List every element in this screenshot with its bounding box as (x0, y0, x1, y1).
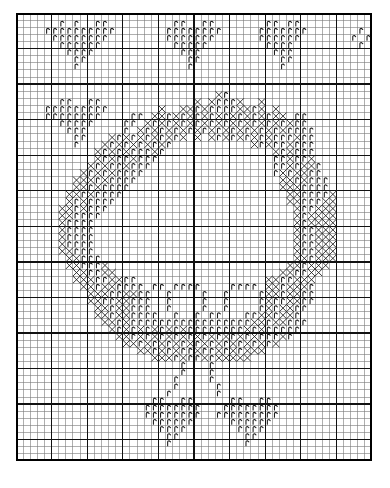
symbol-full-cross-stitch (330, 248, 337, 255)
symbol-full-cross-stitch (287, 156, 294, 163)
symbol-quarter-stitch-mark (96, 206, 99, 211)
symbol-quarter-stitch-mark (324, 192, 327, 197)
symbol-quarter-stitch-mark (225, 412, 228, 417)
symbol-full-cross-stitch (330, 227, 337, 234)
symbol-full-cross-stitch (273, 319, 280, 326)
symbol-quarter-stitch-mark (239, 121, 242, 126)
symbol-quarter-stitch-mark (189, 50, 192, 55)
symbol-quarter-stitch-mark (47, 114, 50, 119)
symbol-quarter-stitch-mark (61, 35, 64, 40)
symbol-quarter-stitch-mark (189, 57, 192, 62)
symbol-quarter-stitch-mark (89, 28, 92, 33)
symbol-quarter-stitch-mark (282, 149, 285, 154)
symbol-full-cross-stitch (265, 134, 272, 141)
symbol-full-cross-stitch (223, 333, 230, 340)
symbol-full-cross-stitch (73, 269, 80, 276)
symbol-quarter-stitch-mark (153, 348, 156, 353)
symbol-quarter-stitch-mark (89, 263, 92, 268)
symbol-full-cross-stitch (280, 127, 287, 134)
symbol-full-cross-stitch (123, 326, 130, 333)
symbol-full-cross-stitch (322, 248, 329, 255)
symbol-quarter-stitch-mark (96, 21, 99, 26)
symbol-quarter-stitch-mark (267, 320, 270, 325)
symbol-quarter-stitch-mark (310, 227, 313, 232)
symbol-full-cross-stitch (237, 106, 244, 113)
symbol-quarter-stitch-mark (303, 149, 306, 154)
symbol-quarter-stitch-mark (153, 405, 156, 410)
symbol-quarter-stitch-mark (296, 21, 299, 26)
symbol-quarter-stitch-mark (96, 43, 99, 48)
symbol-full-cross-stitch (301, 284, 308, 291)
symbol-quarter-stitch-mark (125, 156, 128, 161)
symbol-full-cross-stitch (216, 348, 223, 355)
symbol-quarter-stitch-mark (274, 327, 277, 332)
symbol-quarter-stitch-mark (82, 213, 85, 218)
symbol-quarter-stitch-mark (104, 171, 107, 176)
symbol-full-cross-stitch (187, 113, 194, 120)
symbol-quarter-stitch-mark (232, 398, 235, 403)
symbol-full-cross-stitch (287, 312, 294, 319)
symbol-quarter-stitch-mark (104, 107, 107, 112)
symbol-full-cross-stitch (59, 234, 66, 241)
symbol-quarter-stitch-mark (68, 114, 71, 119)
symbol-full-cross-stitch (66, 205, 73, 212)
symbol-full-cross-stitch (95, 148, 102, 155)
symbol-quarter-stitch-mark (104, 199, 107, 204)
symbol-quarter-stitch-mark (68, 43, 71, 48)
symbol-full-cross-stitch (308, 276, 315, 283)
symbol-full-cross-stitch (194, 127, 201, 134)
symbol-quarter-stitch-mark (239, 427, 242, 432)
symbol-quarter-stitch-mark (125, 121, 128, 126)
symbol-quarter-stitch-mark (289, 327, 292, 332)
symbol-quarter-stitch-mark (146, 163, 149, 168)
symbol-full-cross-stitch (294, 284, 301, 291)
symbol-quarter-stitch-mark (282, 135, 285, 140)
symbol-full-cross-stitch (308, 156, 315, 163)
symbol-quarter-stitch-mark (196, 50, 199, 55)
symbol-quarter-stitch-mark (182, 348, 185, 353)
symbol-quarter-stitch-mark (182, 419, 185, 424)
symbol-full-cross-stitch (258, 113, 265, 120)
symbol-quarter-stitch-mark (146, 313, 149, 318)
symbol-quarter-stitch-mark (175, 327, 178, 332)
symbol-quarter-stitch-mark (168, 320, 171, 325)
symbol-quarter-stitch-mark (282, 299, 285, 304)
symbol-quarter-stitch-mark (317, 178, 320, 183)
symbol-quarter-stitch-mark (274, 135, 277, 140)
symbol-full-cross-stitch (294, 191, 301, 198)
symbol-quarter-stitch-mark (75, 64, 78, 69)
symbol-quarter-stitch-mark (246, 320, 249, 325)
symbol-quarter-stitch-mark (310, 206, 313, 211)
symbol-quarter-stitch-mark (96, 114, 99, 119)
symbol-quarter-stitch-mark (267, 327, 270, 332)
symbol-quarter-stitch-mark (303, 199, 306, 204)
symbol-quarter-stitch-mark (175, 313, 178, 318)
symbol-quarter-stitch-mark (239, 341, 242, 346)
symbol-full-cross-stitch (251, 333, 258, 340)
symbol-quarter-stitch-mark (104, 192, 107, 197)
symbol-quarter-stitch-mark (210, 341, 213, 346)
symbol-full-cross-stitch (209, 333, 216, 340)
symbol-quarter-stitch-mark (310, 256, 313, 261)
symbol-quarter-stitch-mark (210, 320, 213, 325)
symbol-full-cross-stitch (187, 106, 194, 113)
symbol-quarter-stitch-mark (153, 341, 156, 346)
symbol-quarter-stitch-mark (89, 35, 92, 40)
symbol-quarter-stitch-mark (96, 270, 99, 275)
symbol-quarter-stitch-mark (217, 313, 220, 318)
symbol-quarter-stitch-mark (267, 341, 270, 346)
symbol-quarter-stitch-mark (132, 284, 135, 289)
symbol-quarter-stitch-mark (367, 35, 370, 40)
symbol-full-cross-stitch (152, 326, 159, 333)
symbol-full-cross-stitch (123, 148, 130, 155)
symbol-quarter-stitch-mark (225, 114, 228, 119)
symbol-full-cross-stitch (216, 340, 223, 347)
symbol-quarter-stitch-mark (225, 121, 228, 126)
symbol-quarter-stitch-mark (182, 370, 185, 375)
symbol-quarter-stitch-mark (125, 128, 128, 133)
symbol-full-cross-stitch (194, 348, 201, 355)
symbol-full-cross-stitch (73, 177, 80, 184)
symbol-quarter-stitch-mark (210, 121, 213, 126)
symbol-full-cross-stitch (152, 333, 159, 340)
symbol-full-cross-stitch (102, 312, 109, 319)
